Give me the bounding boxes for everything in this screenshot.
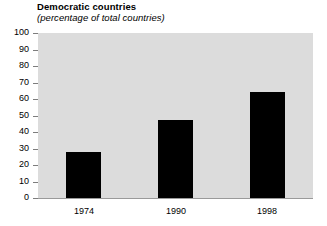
y-axis-tick-label: 70 bbox=[19, 77, 29, 88]
y-axis-tick-label: 40 bbox=[19, 126, 29, 137]
y-axis-tick-label: 30 bbox=[19, 143, 29, 154]
bar bbox=[66, 152, 101, 198]
y-axis-tick-label: 60 bbox=[19, 93, 29, 104]
bars-layer bbox=[38, 33, 313, 198]
chart-subtitle: (percentage of total countries) bbox=[37, 12, 317, 24]
x-axis-tick-label: 1998 bbox=[221, 206, 313, 217]
y-axis-tick-label: 20 bbox=[19, 159, 29, 170]
y-axis-tick-label: 50 bbox=[19, 110, 29, 121]
y-axis: 1009080706050403020100 bbox=[0, 33, 38, 198]
page-title: Democratic countries bbox=[37, 1, 317, 12]
chart-figure: Democratic countries (percentage of tota… bbox=[0, 0, 327, 226]
bar bbox=[250, 92, 285, 198]
y-axis-tick-label: 90 bbox=[19, 44, 29, 55]
x-axis: 197419901998 bbox=[38, 200, 313, 222]
chart-title-block: Democratic countries (percentage of tota… bbox=[37, 1, 317, 24]
x-axis-tick-label: 1974 bbox=[38, 206, 130, 217]
x-axis-tick-label: 1990 bbox=[130, 206, 222, 217]
y-axis-tick-label: 100 bbox=[14, 27, 29, 38]
y-axis-tick-label: 0 bbox=[24, 192, 29, 203]
bar bbox=[158, 120, 193, 198]
y-axis-tick-label: 10 bbox=[19, 176, 29, 187]
y-axis-tick-label: 80 bbox=[19, 60, 29, 71]
x-axis-baseline bbox=[38, 198, 313, 199]
